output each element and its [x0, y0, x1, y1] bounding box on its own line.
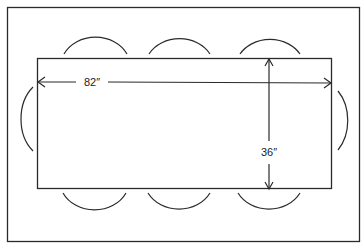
chair-top-2	[149, 39, 210, 54]
width-dimension-arrow	[265, 59, 273, 189]
chair-right	[338, 91, 348, 150]
chair-top-1	[64, 37, 127, 54]
chair-bottom-2	[148, 193, 210, 209]
chair-top-3	[240, 39, 300, 54]
length-dimension-arrow	[38, 77, 331, 88]
chair-bottom-3	[238, 193, 300, 209]
table-rectangle	[38, 59, 332, 189]
room-border	[8, 8, 360, 242]
chair-bottom-1	[63, 193, 126, 210]
width-label: 36″	[261, 146, 277, 158]
length-label: 82″	[84, 76, 100, 88]
table-layout-diagram: 82″ 36″	[0, 0, 364, 249]
chair-left	[21, 87, 33, 151]
